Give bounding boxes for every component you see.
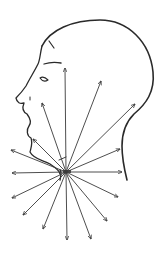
sound-arrow (65, 68, 66, 172)
sound-arrow (33, 139, 66, 172)
sound-arrow (12, 172, 66, 173)
sound-arrow (12, 172, 66, 198)
sound-arrow (66, 172, 107, 221)
head-outline (16, 20, 153, 180)
sound-arrow (23, 172, 66, 215)
sound-arrow (66, 81, 101, 172)
sound-arrow (66, 149, 120, 172)
sound-arrow (66, 172, 67, 240)
sound-arrow (66, 104, 135, 172)
sound-arrow (11, 150, 66, 172)
head-sound-diagram: Head profile with sound radiating from l… (0, 0, 163, 253)
sound-arrow (43, 172, 66, 229)
sound-arrows (11, 68, 135, 240)
